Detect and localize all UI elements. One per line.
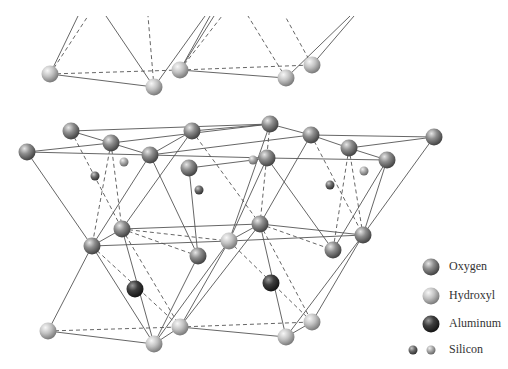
solid-bond [50,74,154,87]
oxygen-atom [259,150,276,167]
silicon-dark-atom [195,186,204,195]
oxygen-atom [184,123,201,140]
solid-bond [27,143,111,152]
solid-bond [27,152,92,246]
hydroxyl-atom [278,70,295,87]
silicon-light-atom [360,167,369,176]
dashed-bond [180,16,222,70]
legend-silicon-light-icon [427,346,436,355]
solid-bond [363,137,434,235]
aluminum-atom [127,281,144,298]
solid-bond [48,331,154,344]
solid-bond [48,246,92,331]
oxygen-atom [303,127,320,144]
dashed-bond [111,143,122,229]
solid-bond [349,137,434,148]
oxygen-atom [181,160,198,177]
oxygen-atom [252,216,269,233]
oxygen-atom [325,242,342,259]
solid-bond [27,152,150,155]
legend-silicon-dark-icon [409,346,418,355]
hydroxyl-atom [172,62,189,79]
solid-bond [267,158,387,160]
oxygen-atom [190,248,207,265]
solid-bond [180,70,286,78]
legend-oxygen-icon [423,259,440,276]
legend-label-aluminum: Aluminum [449,316,501,331]
dashed-bond [192,131,260,224]
silicon-light-atom [249,156,258,165]
solid-bond [267,158,333,250]
dashed-bond [180,322,312,327]
hydroxyl-atom [304,57,321,74]
hydroxyl-atom [221,233,238,250]
solid-bond [122,224,260,229]
oxygen-atom [341,140,358,157]
silicon-light-atom [120,158,129,167]
silicon-dark-atom [91,172,100,181]
oxygen-atom [63,123,80,140]
hydroxyl-atom [278,329,295,346]
oxygen-atom [426,129,443,146]
oxygen-atom [103,135,120,152]
solid-bond [106,16,154,87]
legend-label-silicon: Silicon [449,342,483,357]
aluminum-atom [263,275,280,292]
solid-bond [312,16,354,65]
dashed-bond [50,70,180,74]
legend-icons [409,259,440,355]
kaolinite-structure-diagram [0,0,508,369]
oxygen-atom [355,227,372,244]
hydroxyl-atom [146,336,163,353]
hydroxyl-atom [304,314,321,331]
solid-bond [180,327,286,337]
solid-bond [180,16,210,70]
oxygen-atom [114,221,131,238]
solid-bond [189,160,253,168]
silicon-dark-atom [326,181,335,190]
oxygen-atom [379,152,396,169]
hydroxyl-atom [172,319,189,336]
hydroxyl-atom [42,66,59,83]
dashed-bond [248,16,286,78]
dashed-bond [349,148,363,235]
hydroxyl-atom [146,79,163,96]
oxygen-atom [142,147,159,164]
solid-bond [50,16,78,74]
dashed-bond [333,148,349,250]
dashed-bond [180,65,312,70]
dashed-bond [50,16,88,74]
bonds-layer [27,16,434,344]
dashed-bond [148,16,154,87]
solid-bond [311,135,434,137]
atoms-layer [19,57,443,353]
legend-label-hydroxyl: Hydroxyl [449,288,495,303]
solid-bond [92,241,229,246]
solid-bond [122,131,192,229]
dashed-bond [48,327,180,331]
solid-bond [286,235,363,337]
oxygen-atom [19,144,36,161]
hydroxyl-atom [40,323,57,340]
solid-bond [150,135,311,155]
oxygen-atom [84,238,101,255]
legend-label-oxygen: Oxygen [449,259,487,274]
legend-hydroxyl-icon [423,288,440,305]
oxygen-atom [262,116,279,133]
solid-bond [180,224,260,327]
legend-aluminum-icon [423,316,440,333]
